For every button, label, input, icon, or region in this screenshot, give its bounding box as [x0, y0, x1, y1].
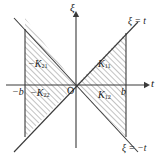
region-fill-K11: [76, 33, 126, 85]
t-axis-arrow: [144, 82, 150, 88]
diagram-canvas: [0, 0, 164, 162]
xi-axis-arrow: [73, 11, 79, 17]
region-fill-K21: [25, 18, 76, 85]
diagram-figure: ξ t O −b b ξ = t ξ = −t −K21 −K22 K11 K1…: [0, 0, 164, 162]
region-fill-K22: [25, 85, 76, 137]
